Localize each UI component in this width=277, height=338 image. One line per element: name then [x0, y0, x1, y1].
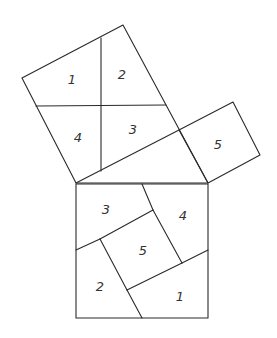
hypotenuse-square-piece-label-1: 1: [176, 289, 184, 304]
large-square-piece-label-2: 2: [118, 67, 126, 82]
hypotenuse-square-piece-label-4: 4: [179, 208, 187, 223]
large-square-outline: [22, 25, 208, 183]
large-leg-square: 1243: [22, 25, 208, 183]
small-leg-square: 5: [179, 102, 260, 183]
hypotenuse-square-cut-line: [127, 290, 142, 318]
large-square-piece-label-3: 3: [129, 122, 137, 137]
small-square-piece-label-5: 5: [214, 137, 222, 152]
hypotenuse-square-piece-label-3: 3: [102, 202, 110, 217]
hypotenuse-square-piece-label-2: 2: [96, 279, 104, 294]
large-square-piece-label-4: 4: [74, 130, 82, 145]
large-square-cut-line: [36, 105, 166, 106]
pythagorean-dissection-diagram: 1243 5 34521: [0, 0, 277, 338]
diagram-canvas: 1243 5 34521: [0, 0, 277, 338]
large-square-piece-label-1: 1: [68, 72, 76, 87]
triangle-hypotenuse-line: [76, 130, 179, 183]
hypotenuse-square-piece-label-5: 5: [139, 243, 147, 258]
hypotenuse-square-cut-line: [153, 210, 182, 263]
hypotenuse-square-cut-line: [182, 250, 208, 263]
hypotenuse-square: 34521: [76, 130, 208, 318]
hypotenuse-square-cut-line: [142, 184, 153, 210]
hypotenuse-square-cut-line: [127, 263, 182, 290]
hypotenuse-square-cut-line: [76, 239, 100, 250]
